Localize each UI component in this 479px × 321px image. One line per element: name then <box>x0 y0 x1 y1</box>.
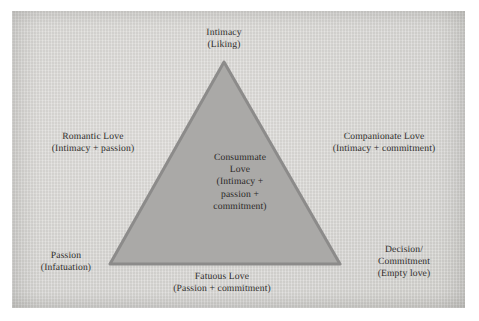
romantic-love-side-label: Romantic Love (Intimacy + passion) <box>22 131 164 155</box>
passion-line-1: Passion <box>16 250 116 262</box>
intimacy-vertex-label: Intimacy (Liking) <box>164 27 284 51</box>
decision-line-2: Commitment <box>342 256 466 268</box>
romantic-line-1: Romantic Love <box>22 131 164 143</box>
passion-line-2: (Infatuation) <box>16 262 116 274</box>
companionate-love-side-label: Companionate Love (Intimacy + commitment… <box>300 131 468 155</box>
consummate-line-4: passion + <box>174 189 306 201</box>
fatuous-line-2: (Passion + commitment) <box>132 283 312 295</box>
intimacy-line-1: Intimacy <box>164 27 284 39</box>
decision-commitment-vertex-label: Decision/ Commitment (Empty love) <box>342 244 466 281</box>
fatuous-line-1: Fatuous Love <box>132 271 312 283</box>
intimacy-line-2: (Liking) <box>164 39 284 51</box>
passion-vertex-label: Passion (Infatuation) <box>16 250 116 274</box>
fatuous-love-side-label: Fatuous Love (Passion + commitment) <box>132 271 312 295</box>
romantic-line-2: (Intimacy + passion) <box>22 143 164 155</box>
companionate-line-1: Companionate Love <box>300 131 468 143</box>
consummate-love-center-label: Consummate Love (Intimacy + passion + co… <box>174 152 306 213</box>
decision-line-3: (Empty love) <box>342 268 466 280</box>
companionate-line-2: (Intimacy + commitment) <box>300 143 468 155</box>
figure-root: Intimacy (Liking) Romantic Love (Intimac… <box>0 0 479 321</box>
consummate-line-5: commitment) <box>174 201 306 213</box>
consummate-line-2: Love <box>174 164 306 176</box>
decision-line-1: Decision/ <box>342 244 466 256</box>
consummate-line-3: (Intimacy + <box>174 176 306 188</box>
consummate-line-1: Consummate <box>174 152 306 164</box>
